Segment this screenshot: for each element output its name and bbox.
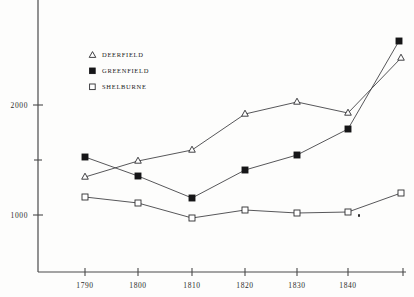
deerfield-point-1830 — [294, 98, 301, 104]
deerfield-point-1810 — [189, 146, 196, 152]
filled-square-icon — [88, 66, 102, 75]
x-tick-label-1810: 1810 — [183, 281, 200, 290]
population-line-chart: 2000 1000 1790 1800 1810 1820 1830 1840 … — [0, 0, 414, 297]
greenfield-point-1790 — [82, 154, 88, 160]
legend-label-shelburne: SHELBURNE — [102, 83, 147, 90]
shelburne-point-1790 — [82, 194, 88, 200]
greenfield-point-1800 — [135, 173, 141, 179]
shelburne-point-1830 — [294, 210, 300, 216]
chart-legend: DEERFIELD GREENFIELD SHELBURNE — [88, 46, 149, 94]
shelburne-point-1840 — [345, 209, 351, 215]
greenfield-point-1820 — [242, 167, 248, 173]
greenfield-point-1850 — [396, 38, 402, 44]
x-tick-label-1790: 1790 — [76, 281, 93, 290]
y-tick-label-1000: 1000 — [0, 211, 28, 220]
shelburne-line — [85, 193, 401, 218]
greenfield-point-1810 — [189, 195, 195, 201]
open-square-icon — [88, 82, 102, 91]
open-triangle-icon — [88, 50, 102, 59]
greenfield-point-1840 — [345, 126, 351, 132]
shelburne-point-1820 — [242, 207, 248, 213]
shelburne-point-1800 — [135, 200, 141, 206]
chart-canvas — [0, 0, 414, 297]
x-tick-label-1830: 1830 — [288, 281, 305, 290]
shelburne-point-1810 — [189, 215, 195, 221]
legend-item-greenfield: GREENFIELD — [88, 62, 149, 78]
shelburne-point-1850 — [398, 190, 404, 196]
y-tick-label-2000: 2000 — [0, 101, 28, 110]
greenfield-point-1830 — [294, 152, 300, 158]
legend-item-deerfield: DEERFIELD — [88, 46, 149, 62]
legend-item-shelburne: SHELBURNE — [88, 78, 149, 94]
scan-artifact-speck — [358, 214, 360, 217]
x-tick-label-1820: 1820 — [236, 281, 253, 290]
legend-label-greenfield: GREENFIELD — [102, 67, 149, 74]
x-tick-label-1840: 1840 — [339, 281, 356, 290]
x-tick-label-1800: 1800 — [129, 281, 146, 290]
axes-group — [38, 0, 406, 272]
deerfield-point-1850 — [398, 54, 405, 60]
series-shelburne — [82, 190, 404, 221]
legend-label-deerfield: DEERFIELD — [102, 51, 144, 58]
